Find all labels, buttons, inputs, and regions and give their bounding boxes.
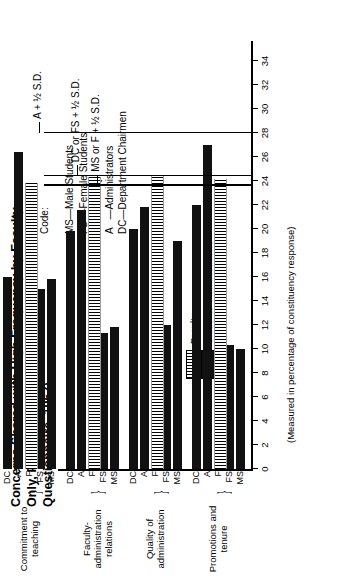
axis-tick-label: 22 — [259, 195, 270, 215]
bar-code-label: FS — [161, 471, 171, 485]
bar-code-label: FS — [224, 471, 234, 485]
bar-code-label: DC — [191, 471, 201, 485]
bar-quality-of-administration-dc — [129, 229, 138, 469]
axis-tick-label: 24 — [259, 171, 270, 191]
reference-line — [44, 175, 253, 176]
axis-tick — [253, 468, 258, 469]
group-name-label: Promotions and tenure — [207, 501, 230, 576]
bar-quality-of-administration-ms — [173, 241, 182, 469]
group-name-label: Faculty-administration relations — [81, 501, 115, 576]
axis-tick-label: 6 — [259, 387, 270, 407]
bar-code-label: A — [76, 471, 86, 485]
bar-code-label: MS — [235, 471, 245, 485]
axis-tick — [253, 396, 258, 397]
bar-commitment-to-teaching-f — [25, 183, 38, 469]
axis-tick-label: 28 — [259, 123, 270, 143]
bar-code-label: A — [202, 471, 212, 485]
axis-tick — [253, 228, 258, 229]
bar-code-label: A — [139, 471, 149, 485]
code-entry: A —Administrators — [103, 111, 116, 234]
axis-tick — [253, 348, 258, 349]
axis-tick-label: 2 — [259, 435, 270, 455]
bar-code-label: F — [213, 471, 223, 485]
axis-tick — [253, 300, 258, 301]
axis-tick — [253, 444, 258, 445]
axis-tick-label: 4 — [259, 411, 270, 431]
axis-tick — [253, 60, 258, 61]
axis-tick-label: 30 — [259, 99, 270, 119]
bar-code-label: DC — [2, 471, 12, 485]
axis-tick — [253, 252, 258, 253]
axis-tick — [253, 156, 258, 157]
group-name-label: Commitment to teaching — [18, 501, 41, 576]
axis-tick — [253, 132, 258, 133]
bar-faculty-administration-relations-a — [77, 210, 86, 469]
category-axis-line — [251, 41, 253, 471]
reference-line-label: MS or F + ½ S.D. — [90, 94, 101, 172]
axis-tick — [253, 84, 258, 85]
bar-code-label: F — [150, 471, 160, 485]
bar-code-label: MS — [172, 471, 182, 485]
bar-faculty-administration-relations-ms — [110, 327, 119, 469]
bar-commitment-to-teaching-a — [14, 152, 23, 469]
group-name-label: Quality of administration — [144, 501, 167, 576]
axis-tick-label: 20 — [259, 219, 270, 239]
axis-tick-label: 32 — [259, 75, 270, 95]
bar-promotions-and-tenure-ms — [236, 349, 245, 469]
reference-line-label: A + ½ S.D. — [32, 71, 43, 119]
bar-faculty-administration-relations-dc — [66, 231, 75, 469]
axis-tick-label: 12 — [259, 315, 270, 335]
group-brace: } — [134, 491, 187, 494]
axis-tick — [253, 372, 258, 373]
bar-quality-of-administration-f — [151, 175, 164, 469]
axis-label: (Measured in percentage of constituency … — [285, 226, 296, 443]
axis-tick-label: 26 — [259, 147, 270, 167]
bar-promotions-and-tenure-dc — [192, 205, 201, 469]
group-brace: } — [197, 491, 250, 494]
axis-tick-label: 34 — [259, 51, 270, 71]
bar-quality-of-administration-a — [140, 207, 149, 469]
axis-tick — [253, 180, 258, 181]
bar-code-label: MS — [109, 471, 119, 485]
axis-tick-label: 16 — [259, 267, 270, 287]
bar-promotions-and-tenure-f — [214, 179, 227, 469]
axis-tick-label: 8 — [259, 363, 270, 383]
bar-code-label: FS — [35, 471, 45, 485]
bar-code-label: F — [24, 471, 34, 485]
axis-tick — [253, 204, 258, 205]
axis-tick-label: 0 — [259, 459, 270, 479]
reference-line — [44, 184, 253, 185]
code-entry: DC—Department Chairmen — [116, 111, 129, 234]
bar-code-label: F — [87, 471, 97, 485]
bar-code-label: MS — [46, 471, 56, 485]
axis-tick — [253, 108, 258, 109]
bar-promotions-and-tenure-a — [203, 145, 212, 469]
bar-code-label: DC — [65, 471, 75, 485]
axis-tick — [253, 420, 258, 421]
group-brace: } — [71, 491, 124, 494]
axis-tick — [253, 276, 258, 277]
bar-faculty-administration-relations-f — [88, 177, 101, 469]
bar-code-label: FS — [98, 471, 108, 485]
group-brace: } — [8, 491, 61, 494]
axis-tick — [253, 324, 258, 325]
axis-tick-label: 18 — [259, 243, 270, 263]
axis-tick-label: 10 — [259, 339, 270, 359]
bar-code-label: DC — [128, 471, 138, 485]
reference-line-label: DC or FS + ½ S.D. — [70, 79, 81, 163]
bar-commitment-to-teaching-ms — [47, 279, 56, 469]
bar-commitment-to-teaching-dc — [3, 277, 12, 469]
bar-code-label: A — [13, 471, 23, 485]
axis-tick-label: 14 — [259, 291, 270, 311]
